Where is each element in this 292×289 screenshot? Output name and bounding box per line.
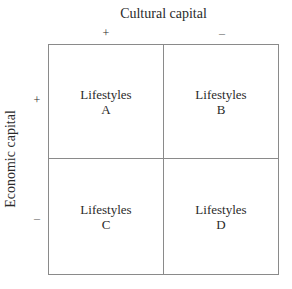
quadrant-d: Lifestyles D — [164, 159, 278, 274]
lifestyles-quadrant-grid: Lifestyles A Lifestyles B Lifestyles C L… — [48, 44, 279, 275]
economic-capital-axis-title: Economic capital — [3, 110, 19, 208]
quadrant-b-label: Lifestyles — [195, 87, 246, 102]
quadrant-c: Lifestyles C — [49, 159, 164, 274]
quadrant-c-letter: C — [102, 217, 111, 232]
quadrant-d-label: Lifestyles — [195, 202, 246, 217]
quadrant-b: Lifestyles B — [164, 45, 278, 159]
cultural-capital-plus-sign: + — [96, 27, 116, 39]
quadrant-a-letter: A — [101, 102, 110, 117]
cultural-capital-axis-title: Cultural capital — [48, 6, 279, 22]
cultural-capital-minus-sign: – — [212, 27, 232, 39]
quadrant-b-letter: B — [217, 102, 226, 117]
economic-capital-plus-sign: + — [27, 94, 47, 106]
quadrant-c-label: Lifestyles — [80, 202, 131, 217]
economic-capital-minus-sign: – — [27, 212, 47, 224]
quadrant-d-letter: D — [216, 217, 225, 232]
quadrant-a-label: Lifestyles — [80, 87, 131, 102]
quadrant-a: Lifestyles A — [49, 45, 164, 159]
